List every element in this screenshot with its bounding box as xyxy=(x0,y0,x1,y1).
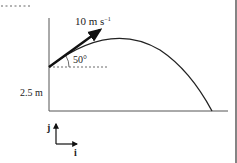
projectile-diagram: 10 m s−1 50° 2.5 m j i xyxy=(0,0,237,163)
angle-arc xyxy=(66,56,69,67)
angle-label: 50° xyxy=(73,54,87,65)
velocity-label: 10 m s−1 xyxy=(75,15,111,27)
unit-vector-j-label: j xyxy=(46,122,50,133)
height-label: 2.5 m xyxy=(20,87,43,98)
unit-vector-i-label: i xyxy=(74,147,77,158)
